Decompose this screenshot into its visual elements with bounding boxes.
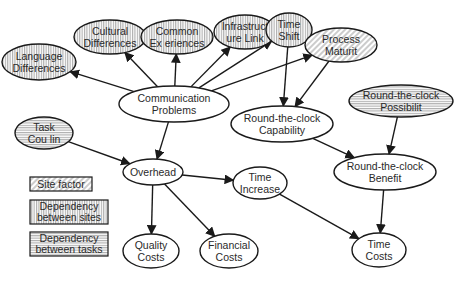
legend-item-dependency-tasks: Dependency between tasks <box>30 232 108 256</box>
legend-label-site-factor: Site factor <box>37 178 85 190</box>
node-label-infra-line2: ure Link <box>226 32 264 44</box>
edge-overhead-to-financial <box>165 184 215 236</box>
node-label-comm-line1: Communication <box>138 92 211 104</box>
node-label-rtc_ben-line1: Round-the-clock <box>347 160 424 172</box>
node-label-process-line1: Process <box>322 33 360 45</box>
node-label-cultural-line1: Cultural <box>92 25 128 37</box>
node-common: CommonEx eriences <box>141 20 213 54</box>
node-rtc_pos: Round-the-clockPossibilit <box>349 85 453 117</box>
node-task: TaskCou lin <box>15 117 73 149</box>
node-label-financial-line2: Costs <box>216 251 243 263</box>
edge-task-to-overhead <box>68 142 130 164</box>
node-timecosts: TimeCosts <box>352 233 406 267</box>
edge-rtc_pos-to-rtc_ben <box>389 117 397 154</box>
node-label-common-line1: Common <box>156 25 199 37</box>
edge-comm-to-process <box>211 55 312 91</box>
node-label-quality-line2: Costs <box>138 251 165 263</box>
legend-label-tasks-line2: between tasks <box>35 243 102 255</box>
node-label-financial-line1: Financial <box>208 239 250 251</box>
node-overhead: Overhead <box>123 159 183 185</box>
edge-rtc_ben-to-timecosts <box>380 190 383 233</box>
node-label-task-line2: Cou lin <box>28 133 61 145</box>
node-label-timeshift-line2: Shift <box>278 30 299 42</box>
node-label-rtc_cap-line2: Capability <box>259 124 306 136</box>
node-label-rtc_ben-line2: Benefit <box>369 172 402 184</box>
edge-comm-to-cultural <box>125 52 158 86</box>
node-financial: FinancialCosts <box>200 234 258 268</box>
node-label-timeinc-line2: Increase <box>240 183 280 195</box>
node-label-task-line1: Task <box>33 121 55 133</box>
node-label-rtc_pos-line1: Round-the-clock <box>363 89 440 101</box>
edge-timeshift-to-rtc_cap <box>283 47 287 106</box>
node-cultural: CulturalDifferences <box>74 20 146 54</box>
node-label-timecosts-line1: Time <box>368 238 391 250</box>
node-label-infra-line1: Infrastruct <box>222 20 269 32</box>
node-process: ProcessMaturit <box>305 28 377 62</box>
node-label-timecosts-line2: Costs <box>366 250 393 262</box>
node-comm: CommunicationProblems <box>119 86 229 122</box>
node-quality: QualityCosts <box>123 234 179 268</box>
legend-item-dependency-sites: Dependency between sites <box>30 200 108 224</box>
legend-label-sites-line2: between sites <box>37 211 101 223</box>
node-label-language-line1: Language <box>16 50 63 62</box>
edge-process-to-rtc_cap <box>295 61 329 107</box>
node-label-quality-line1: Quality <box>135 239 168 251</box>
legend-item-site-factor: Site factor <box>30 177 92 191</box>
node-label-rtc_cap-line1: Round-the-clock <box>244 112 321 124</box>
edge-rtc_cap-to-rtc_ben <box>313 138 354 157</box>
node-label-process-line2: Maturit <box>325 45 357 57</box>
node-label-rtc_pos-line2: Possibilit <box>380 101 422 113</box>
edge-comm-to-language <box>70 72 134 92</box>
node-rtc_ben: Round-the-clockBenefit <box>334 154 436 190</box>
edges-layer <box>68 41 397 239</box>
nodes-layer: LanguageDifferencesCulturalDifferencesCo… <box>2 13 453 268</box>
node-rtc_cap: Round-the-clockCapability <box>231 106 333 142</box>
node-label-cultural-line2: Differences <box>84 37 137 49</box>
node-label-comm-line2: Problems <box>152 104 196 116</box>
legend: Site factor Dependency between sites Dep… <box>30 177 108 256</box>
edge-overhead-to-timeinc <box>182 175 233 180</box>
node-label-timeinc-line1: Time <box>249 171 272 183</box>
edge-comm-to-overhead <box>157 122 168 159</box>
node-label-common-line2: Ex eriences <box>150 37 205 49</box>
edge-overhead-to-quality <box>151 185 152 234</box>
causal-diagram: LanguageDifferencesCulturalDifferencesCo… <box>0 0 468 281</box>
node-language: LanguageDifferences <box>2 44 76 80</box>
node-label-language-line2: Differences <box>13 62 66 74</box>
node-label-timeshift-line1: Time <box>278 18 301 30</box>
edge-comm-to-common <box>175 54 176 86</box>
node-label-overhead-line1: Overhead <box>130 166 176 178</box>
edge-timeinc-to-timecosts <box>280 194 359 239</box>
node-timeinc: TimeIncrease <box>233 167 287 199</box>
